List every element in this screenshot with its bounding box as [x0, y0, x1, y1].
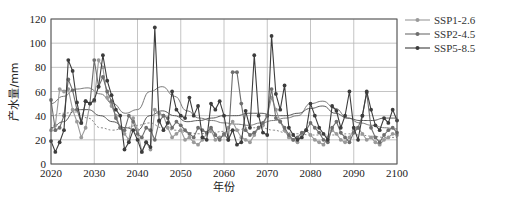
data-point-marker	[373, 136, 377, 140]
data-point-marker	[356, 138, 360, 142]
data-point-marker	[373, 140, 377, 144]
data-point-marker	[114, 108, 118, 112]
data-point-marker	[378, 140, 382, 144]
data-point-marker	[317, 131, 321, 135]
data-point-marker	[188, 132, 192, 136]
data-point-marker	[235, 70, 239, 74]
x-tick-label: 2090	[343, 167, 366, 179]
data-point-marker	[386, 121, 390, 125]
data-point-marker	[183, 116, 187, 120]
data-point-marker	[170, 136, 174, 140]
data-point-marker	[136, 132, 140, 136]
data-point-marker	[382, 138, 386, 142]
data-point-marker	[270, 87, 274, 91]
data-point-marker	[179, 128, 183, 132]
data-point-marker	[114, 116, 118, 120]
data-point-marker	[205, 138, 209, 142]
data-point-marker	[339, 131, 343, 135]
data-point-marker	[300, 131, 304, 135]
data-point-marker	[62, 128, 66, 132]
data-point-marker	[391, 132, 395, 136]
data-point-marker	[53, 150, 57, 154]
data-point-marker	[162, 128, 166, 132]
data-point-marker	[326, 138, 330, 142]
data-point-marker	[322, 143, 326, 147]
data-point-marker	[131, 120, 135, 124]
data-point-marker	[348, 140, 352, 144]
data-point-marker	[278, 108, 282, 112]
data-point-marker	[213, 108, 217, 112]
data-point-marker	[153, 26, 157, 30]
data-point-marker	[105, 96, 109, 100]
data-point-marker	[136, 138, 140, 142]
data-point-marker	[58, 140, 62, 144]
data-point-marker	[278, 120, 282, 124]
data-point-marker	[166, 121, 170, 125]
legend-marker-icon	[416, 18, 420, 22]
data-point-marker	[179, 123, 183, 127]
legend-label: SSP5-8.5	[434, 42, 476, 54]
data-point-marker	[123, 148, 127, 152]
data-point-marker	[335, 109, 339, 113]
data-point-marker	[144, 140, 148, 144]
data-point-marker	[343, 114, 347, 118]
data-point-marker	[291, 133, 295, 137]
y-tick-label: 120	[30, 13, 47, 25]
data-point-marker	[257, 126, 261, 130]
data-point-marker	[101, 53, 105, 57]
data-point-marker	[348, 90, 352, 94]
y-axis-title: 产水量/mm	[7, 62, 21, 120]
data-point-marker	[274, 116, 278, 120]
data-point-marker	[296, 138, 300, 142]
x-tick-label: 2040	[127, 167, 150, 179]
data-point-marker	[162, 114, 166, 118]
data-point-marker	[287, 133, 291, 137]
x-axis-title: 年份	[213, 180, 235, 194]
data-point-marker	[131, 128, 135, 132]
data-point-marker	[92, 58, 96, 62]
data-point-marker	[170, 90, 174, 94]
data-point-marker	[343, 140, 347, 144]
data-point-marker	[369, 108, 373, 112]
data-point-marker	[92, 98, 96, 102]
data-point-marker	[244, 109, 248, 113]
data-point-marker	[352, 126, 356, 130]
legend-label: SSP2-4.5	[434, 28, 476, 40]
data-point-marker	[66, 58, 70, 62]
data-point-marker	[248, 140, 252, 144]
data-point-marker	[192, 140, 196, 144]
data-point-marker	[84, 99, 88, 103]
x-tick-label: 2100	[386, 167, 409, 179]
data-point-marker	[244, 128, 248, 132]
data-point-marker	[179, 114, 183, 118]
y-tick-label: 60	[35, 86, 47, 98]
data-point-marker	[183, 138, 187, 142]
data-point-marker	[153, 108, 157, 112]
data-point-marker	[175, 108, 179, 112]
data-point-marker	[391, 126, 395, 130]
data-point-marker	[386, 136, 390, 140]
line-chart: 0204060801001202020203020402050206020702…	[0, 0, 508, 207]
data-point-marker	[71, 69, 75, 73]
data-point-marker	[257, 114, 261, 118]
data-point-marker	[291, 138, 295, 142]
data-point-marker	[175, 120, 179, 124]
x-tick-label: 2070	[256, 167, 279, 179]
legend-marker-icon	[416, 32, 420, 36]
data-point-marker	[361, 114, 365, 118]
data-point-marker	[218, 138, 222, 142]
data-point-marker	[58, 126, 62, 130]
data-point-marker	[192, 114, 196, 118]
data-point-marker	[226, 138, 230, 142]
data-point-marker	[84, 126, 88, 130]
data-point-marker	[196, 126, 200, 130]
data-point-marker	[213, 138, 217, 142]
data-point-marker	[317, 140, 321, 144]
data-point-marker	[365, 138, 369, 142]
data-point-marker	[105, 90, 109, 94]
data-point-marker	[330, 126, 334, 130]
data-point-marker	[196, 104, 200, 108]
data-point-marker	[79, 136, 83, 140]
data-point-marker	[287, 126, 291, 130]
data-point-marker	[200, 136, 204, 140]
